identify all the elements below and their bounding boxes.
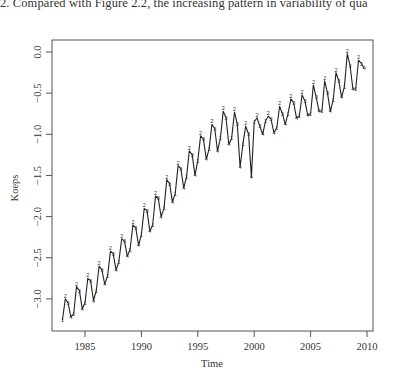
quarter-marker: 4 — [160, 214, 163, 220]
quarter-marker: 4 — [103, 281, 106, 287]
quarter-marker: 1 — [208, 146, 211, 152]
y-axis-title: Koeps — [9, 175, 20, 202]
quarter-marker: 3 — [100, 267, 103, 273]
quarter-marker: 4 — [182, 185, 185, 191]
quarter-marker: 4 — [148, 228, 151, 234]
quarter-marker: 2 — [210, 118, 213, 124]
quarter-marker: 3 — [326, 90, 329, 96]
quarter-marker: 1 — [151, 222, 154, 228]
quarter-marker: 1 — [332, 97, 335, 103]
quarter-marker: 2 — [346, 48, 349, 54]
quarter-marker: 4 — [329, 108, 332, 114]
x-axis: 198519901995200020052010 — [75, 331, 378, 352]
quarter-marker: 3 — [258, 123, 261, 129]
quarter-marker: 4 — [261, 131, 264, 137]
quarter-marker: 1 — [309, 111, 312, 117]
x-tick-label: 2000 — [244, 341, 265, 352]
quarter-marker: 3 — [146, 208, 149, 214]
quarter-marker: 3 — [191, 152, 194, 158]
quarter-marker: 2 — [267, 110, 270, 116]
quarter-marker: 1 — [354, 86, 357, 92]
x-tick-label: 1995 — [187, 341, 208, 352]
quarter-marker: 1 — [275, 125, 278, 131]
quarter-marker: 4 — [363, 65, 366, 71]
y-axis: 0.0−0.5−1.0−1.5−2.0−2.5−3.0 — [32, 45, 52, 308]
quarter-marker: 3 — [89, 278, 92, 284]
quarter-marker: 4 — [340, 94, 343, 100]
quarter-marker: 2 — [199, 130, 202, 136]
quarter-marker: 1 — [106, 273, 109, 279]
quarter-marker: 1 — [95, 288, 98, 294]
quarter-marker: 2 — [301, 89, 304, 95]
quarter-marker: 3 — [349, 63, 352, 69]
quarter-marker: 1 — [241, 141, 244, 147]
quarter-marker: 4 — [284, 121, 287, 127]
quarter-marker: 4 — [250, 174, 253, 180]
y-tick-label: −0.5 — [32, 84, 43, 103]
quarter-marker: 1 — [174, 191, 177, 197]
quarter-marker: 3 — [337, 78, 340, 84]
quarter-marker: 4 — [81, 306, 84, 312]
x-tick-label: 2005 — [300, 341, 321, 352]
quarter-marker: 3 — [270, 116, 273, 122]
quarter-marker: 3 — [67, 300, 70, 306]
quarter-marker: 3 — [202, 136, 205, 142]
quarter-marker: 3 — [303, 98, 306, 104]
quarter-marker: 4 — [239, 164, 242, 170]
quarter-marker: 1 — [196, 158, 199, 164]
y-tick-label: −1.5 — [32, 166, 43, 185]
quarter-marker: 1 — [72, 311, 75, 317]
quarter-marker: 1 — [320, 108, 323, 114]
quarter-marker: 2 — [165, 174, 168, 180]
quarter-marker: 3 — [179, 166, 182, 172]
quarter-marker: 1 — [140, 232, 143, 238]
quarter-marker: 4 — [193, 172, 196, 178]
quarter-marker: 1 — [219, 135, 222, 141]
quarter-marker: 4 — [126, 253, 129, 259]
quarter-marker: 3 — [292, 100, 295, 106]
quarter-marker: 2 — [64, 293, 67, 299]
quarter-marker: 1 — [83, 300, 86, 306]
time-series-chart: 0.0−0.5−1.0−1.5−2.0−2.5−3.0 198519901995… — [0, 0, 394, 382]
quarter-marker: 3 — [134, 225, 137, 231]
quarter-marker: 3 — [236, 121, 239, 127]
x-tick-label: 1985 — [75, 341, 96, 352]
quarter-marker: 2 — [312, 79, 315, 85]
quarter-marker: 4 — [92, 298, 95, 304]
quarter-marker: 3 — [247, 131, 250, 137]
quarter-marker: 3 — [281, 111, 284, 117]
data-series: 1234123412341234123412341234123412341234… — [61, 48, 366, 324]
quarter-marker: 2 — [131, 219, 134, 225]
quarter-marker: 2 — [188, 145, 191, 151]
quarter-marker: 2 — [289, 93, 292, 99]
quarter-marker: 4 — [137, 242, 140, 248]
series-line — [62, 54, 364, 321]
quarter-marker: 4 — [114, 267, 117, 273]
quarter-marker: 3 — [112, 251, 115, 257]
y-tick-label: −3.0 — [32, 289, 43, 308]
quarter-marker: 2 — [334, 67, 337, 73]
quarter-marker: 2 — [255, 112, 258, 118]
y-tick-label: 0.0 — [32, 45, 43, 58]
quarter-marker: 3 — [213, 126, 216, 132]
x-axis-title: Time — [201, 358, 223, 369]
quarter-marker: 2 — [98, 260, 101, 266]
quarter-marker: 4 — [227, 141, 230, 147]
quarter-marker: 2 — [222, 105, 225, 111]
y-tick-label: −1.0 — [32, 125, 43, 144]
quarter-marker: 3 — [123, 238, 126, 244]
quarter-marker: 3 — [157, 195, 160, 201]
quarter-marker: 3 — [224, 115, 227, 121]
x-tick-label: 1990 — [131, 341, 152, 352]
quarter-marker: 4 — [205, 156, 208, 162]
quarter-marker: 2 — [323, 75, 326, 81]
quarter-marker: 1 — [61, 317, 64, 323]
quarter-marker: 3 — [78, 288, 81, 294]
quarter-marker: 1 — [185, 174, 188, 180]
y-tick-label: −2.0 — [32, 207, 43, 226]
x-tick-label: 2010 — [357, 341, 378, 352]
quarter-marker: 2 — [357, 54, 360, 60]
quarter-marker: 1 — [129, 247, 132, 253]
quarter-marker: 1 — [287, 111, 290, 117]
quarter-marker: 1 — [253, 119, 256, 125]
